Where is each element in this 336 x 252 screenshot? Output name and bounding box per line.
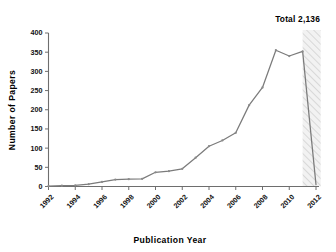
y-tick-label: 100 <box>31 144 43 153</box>
data-point <box>248 104 250 106</box>
y-tick-label: 50 <box>35 163 43 172</box>
data-point <box>221 139 223 141</box>
y-tick-label: 400 <box>31 28 43 37</box>
y-tick-label: 300 <box>31 67 43 76</box>
chart-background <box>0 0 336 252</box>
y-tick-label: 0 <box>39 182 43 191</box>
data-point <box>288 55 290 57</box>
y-tick-label: 350 <box>31 48 43 57</box>
data-point <box>275 49 277 51</box>
y-tick-label: 250 <box>31 86 43 95</box>
data-point <box>87 183 89 185</box>
shaded-partial-year-band <box>303 30 321 187</box>
data-point <box>47 185 49 187</box>
data-point <box>61 185 63 187</box>
data-point <box>168 170 170 172</box>
data-point <box>235 132 237 134</box>
y-axis-title: Number of Papers <box>7 70 17 150</box>
data-point <box>114 178 116 180</box>
data-point <box>301 50 303 52</box>
data-point <box>181 168 183 170</box>
x-axis-title: Publication Year <box>133 235 206 245</box>
data-point <box>128 178 130 180</box>
data-point <box>261 86 263 88</box>
data-point <box>208 145 210 147</box>
y-tick-label: 150 <box>31 124 43 133</box>
data-point <box>154 171 156 173</box>
data-point <box>194 157 196 159</box>
chart-container: Total 2,136 050100150200250300350400 199… <box>0 0 336 252</box>
total-annotation-label: Total 2,136 <box>275 14 320 24</box>
y-tick-label: 200 <box>31 105 43 114</box>
hatch-band-rect <box>303 30 321 187</box>
data-point <box>74 184 76 186</box>
publication-year-line-chart: Total 2,136 050100150200250300350400 199… <box>0 0 336 252</box>
data-point <box>101 181 103 183</box>
data-point <box>141 178 143 180</box>
